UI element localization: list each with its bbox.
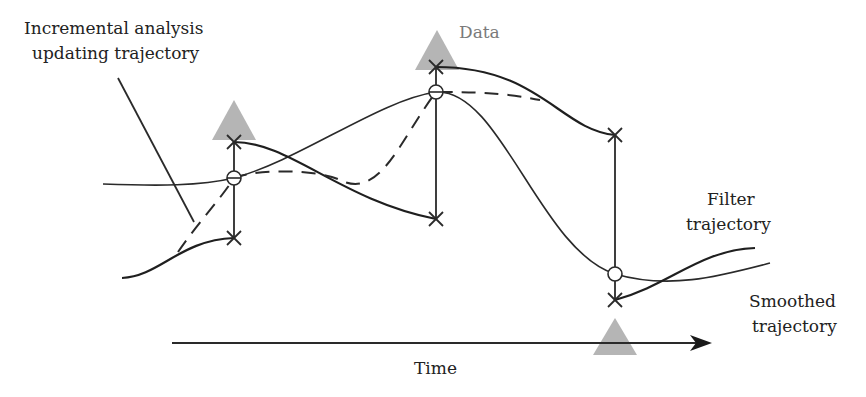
filter-trajectory-segment-2	[234, 142, 436, 219]
x-markers	[227, 60, 622, 307]
incremental-label-line2: updating trajectory	[32, 43, 199, 63]
time-label: Time	[414, 358, 457, 378]
data-triangle-2	[415, 30, 459, 70]
smoothed-label-line1: Smoothed	[749, 291, 836, 311]
filter-label-line1: Filter	[707, 189, 756, 209]
data-label: Data	[459, 22, 500, 42]
filter-label-line2: trajectory	[686, 214, 771, 234]
filter-trajectory-segment-1	[122, 238, 234, 278]
smoothed-label-line2: trajectory	[752, 316, 837, 336]
circle-plus-icon	[227, 171, 241, 185]
circle-plus-icon	[429, 85, 443, 99]
circle-plus-icon	[608, 267, 622, 281]
data-triangle-3	[593, 318, 637, 355]
incremental-leader-line	[118, 78, 194, 222]
filter-trajectory-segment-4	[615, 248, 755, 300]
circle-markers	[227, 85, 622, 281]
data-triangle-1	[212, 100, 256, 140]
incremental-label-line1: Incremental analysis	[24, 18, 203, 38]
data-assimilation-diagram: Incremental analysis updating trajectory…	[0, 0, 866, 397]
